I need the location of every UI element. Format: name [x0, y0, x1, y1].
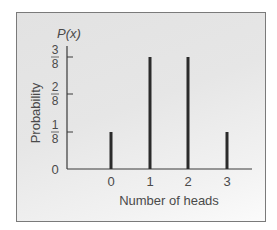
chart-svg: 0 1 8 2 8 3 8 P(x) Probability 0 1 2 3 N…: [0, 0, 277, 230]
y-tick-label-3-num: 3: [52, 43, 59, 57]
y-tick-label-2-den: 8: [52, 94, 59, 108]
x-tick-label-3: 3: [223, 174, 230, 189]
x-axis-label: Number of heads: [119, 193, 219, 208]
y-axis-label: Probability: [28, 82, 43, 143]
x-tick-label-2: 2: [184, 174, 191, 189]
y-tick-label-2-num: 2: [52, 80, 59, 94]
y-tick-label-1-num: 1: [52, 118, 59, 132]
y-tick-label-0: 0: [51, 162, 58, 177]
y-tick-label-3-den: 8: [52, 57, 59, 71]
y-axis-symbol: P(x): [57, 26, 81, 41]
y-tick-label-1-den: 8: [52, 132, 59, 146]
x-tick-label-0: 0: [107, 174, 114, 189]
x-tick-label-1: 1: [146, 174, 153, 189]
